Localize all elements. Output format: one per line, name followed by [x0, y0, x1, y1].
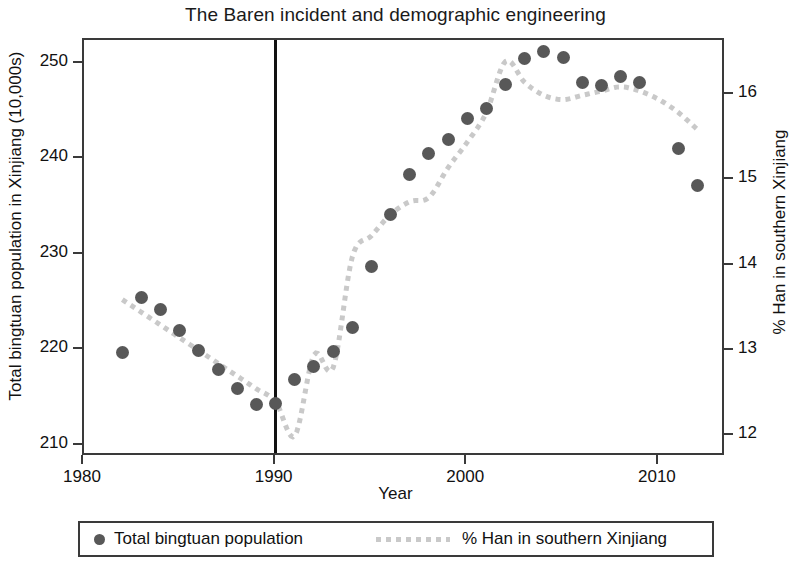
legend-item-han-percentage[interactable]: % Han in southern Xinjiang [376, 523, 667, 555]
legend-label-han-percentage: % Han in southern Xinjiang [462, 529, 667, 549]
y-tick-right-12 [724, 433, 733, 435]
data-point [576, 76, 589, 89]
y-tick-left-220 [73, 347, 82, 349]
y-tick-label-right-14: 14 [738, 253, 778, 273]
data-point [442, 133, 455, 146]
data-point [173, 324, 186, 337]
x-tick-label-1980: 1980 [42, 467, 122, 487]
y-tick-label-right-16: 16 [738, 82, 778, 102]
data-point [250, 398, 263, 411]
y-tick-label-left-240: 240 [22, 146, 68, 166]
data-point [212, 363, 225, 376]
y-tick-label-right-13: 13 [738, 338, 778, 358]
y-tick-label-left-250: 250 [22, 51, 68, 71]
data-point [231, 382, 244, 395]
data-point [614, 70, 627, 83]
y-tick-label-left-210: 210 [22, 433, 68, 453]
y-tick-label-left-220: 220 [22, 337, 68, 357]
data-point [154, 303, 167, 316]
data-point [499, 78, 512, 91]
x-axis-label: Year [0, 484, 791, 504]
data-point [518, 52, 531, 65]
data-point [672, 142, 685, 155]
data-point [135, 291, 148, 304]
y-tick-left-250 [73, 61, 82, 63]
x-tick-label-1990: 1990 [234, 467, 314, 487]
y-tick-right-16 [724, 92, 733, 94]
legend-circle-marker-icon [94, 534, 105, 545]
data-point [346, 321, 359, 334]
y-axis-label-left: Total bingtuan population in Xinjiang (1… [6, 6, 26, 446]
y-tick-right-14 [724, 263, 733, 265]
legend: Total bingtuan population % Han in south… [78, 521, 714, 557]
y-tick-label-left-230: 230 [22, 242, 68, 262]
y-tick-left-240 [73, 156, 82, 158]
data-point [537, 45, 550, 58]
figure-container: The Baren incident and demographic engin… [0, 0, 791, 561]
x-tick-label-2000: 2000 [425, 467, 505, 487]
baren-incident-vertical-line [274, 40, 277, 453]
x-tick-2000 [464, 455, 466, 464]
data-point [557, 51, 570, 64]
legend-dotted-line-marker-icon [376, 537, 450, 542]
data-point [633, 76, 646, 89]
x-tick-1990 [273, 455, 275, 464]
data-point [365, 260, 378, 273]
data-point [384, 208, 397, 221]
han-percentage-line [84, 40, 722, 453]
y-tick-label-right-12: 12 [738, 423, 778, 443]
data-point [480, 102, 493, 115]
legend-item-population[interactable]: Total bingtuan population [94, 523, 303, 555]
page-title: The Baren incident and demographic engin… [0, 4, 791, 26]
data-point [116, 346, 129, 359]
data-point [461, 112, 474, 125]
plot-frame [82, 38, 724, 455]
x-tick-label-2010: 2010 [617, 467, 697, 487]
y-tick-right-13 [724, 348, 733, 350]
plot-area [84, 40, 722, 453]
x-tick-1980 [81, 455, 83, 464]
y-tick-left-210 [73, 443, 82, 445]
data-point [422, 147, 435, 160]
data-point [307, 360, 320, 373]
data-point [192, 344, 205, 357]
y-tick-left-230 [73, 252, 82, 254]
legend-label-population: Total bingtuan population [114, 529, 303, 549]
y-tick-label-right-15: 15 [738, 167, 778, 187]
x-tick-2010 [656, 455, 658, 464]
data-point [269, 397, 282, 410]
data-point [595, 79, 608, 92]
y-tick-right-15 [724, 177, 733, 179]
data-point [691, 179, 704, 192]
data-point [403, 168, 416, 181]
data-point [327, 345, 340, 358]
data-point [288, 373, 301, 386]
